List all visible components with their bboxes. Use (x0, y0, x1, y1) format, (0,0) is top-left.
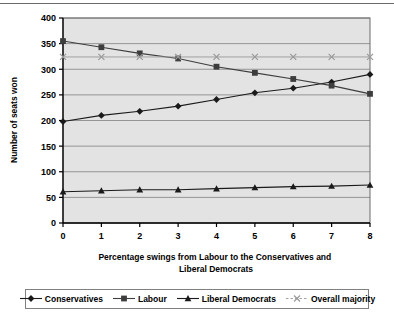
square-icon (112, 290, 136, 308)
legend-item-label: Labour (138, 294, 167, 304)
x-axis-tick-label: 5 (252, 231, 257, 241)
chart-legend: ConservativesLabourLiberal DemocratsOver… (25, 289, 369, 309)
data-point-square (367, 91, 373, 97)
x-axis-tick-label: 8 (367, 231, 372, 241)
data-point-square (329, 83, 335, 89)
cross-icon (285, 290, 309, 308)
y-axis-tick-label: 300 (41, 65, 56, 75)
data-point-square (214, 64, 220, 70)
y-axis-tick-label: 150 (41, 142, 56, 152)
triangle-icon (176, 290, 200, 308)
y-axis-tick-label: 250 (41, 90, 56, 100)
y-axis-tick-label: 50 (46, 193, 56, 203)
diamond-icon (19, 290, 43, 308)
x-axis-tick-label: 4 (214, 231, 219, 241)
legend-item-label: Conservatives (45, 294, 103, 304)
data-point-square (60, 38, 66, 44)
legend-item-liberal-democrats[interactable]: Liberal Democrats (176, 290, 276, 308)
y-axis-title: Number of seats won (9, 77, 19, 163)
x-axis-tick-label: 3 (176, 231, 181, 241)
line-chart: 050100150200250300350400 012345678 Numbe… (0, 0, 394, 290)
data-point-square (98, 44, 104, 50)
y-axis-tick-label: 400 (41, 13, 56, 23)
x-axis-tick-label: 7 (329, 231, 334, 241)
y-axis-tick-label: 200 (41, 116, 56, 126)
y-axis-tick-labels: 050100150200250300350400 (41, 13, 56, 228)
y-axis-tick-label: 100 (41, 167, 56, 177)
x-axis-tick-labels: 012345678 (60, 231, 372, 241)
legend-item-overall-majority[interactable]: Overall majority (285, 290, 375, 308)
data-point-square (252, 70, 258, 76)
x-axis-tick-label: 0 (60, 231, 65, 241)
legend-item-label: Liberal Democrats (202, 294, 276, 304)
x-axis-title: Percentage swings from Labour to the Con… (98, 252, 333, 274)
legend-item-labour[interactable]: Labour (112, 290, 167, 308)
y-axis-tick-label: 350 (41, 39, 56, 49)
data-point-cross (294, 296, 300, 302)
legend-item-conservatives[interactable]: Conservatives (19, 290, 103, 308)
x-axis-tick-label: 1 (99, 231, 104, 241)
data-point-diamond (27, 295, 34, 302)
x-axis-tick-label: 2 (137, 231, 142, 241)
data-point-square (121, 296, 127, 302)
y-axis-tick-label: 0 (51, 218, 56, 228)
chart-figure: 050100150200250300350400 012345678 Numbe… (0, 0, 394, 321)
x-axis-tick-label: 6 (291, 231, 296, 241)
legend-item-label: Overall majority (311, 294, 375, 304)
data-point-square (290, 76, 296, 82)
